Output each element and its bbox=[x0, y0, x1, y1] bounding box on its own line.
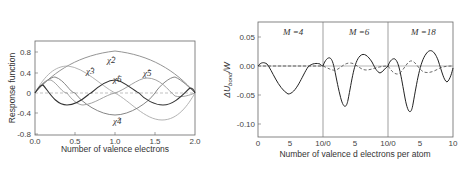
curve-m18-solid bbox=[388, 51, 453, 112]
left-ytick: 0.4 bbox=[20, 69, 32, 78]
annotation-chi5: χ̂5 bbox=[142, 68, 152, 78]
left-xtick: 0.0 bbox=[29, 137, 41, 146]
right-chart: 0.05 0.00 -0.05 -0.10 0 5 10/0 5 10/0 5 … bbox=[222, 22, 458, 159]
right-ytick: 0.00 bbox=[239, 62, 255, 71]
right-y-ticks: 0.05 0.00 -0.05 -0.10 bbox=[237, 33, 261, 129]
right-ytick: -0.10 bbox=[237, 120, 256, 129]
right-y-axis-label: ΔUbond/W bbox=[222, 61, 233, 99]
annotation-chi4: χ̂4 bbox=[112, 116, 122, 126]
right-xtick: 10/0 bbox=[380, 139, 396, 148]
annotation-chi6: χ̂6 bbox=[112, 74, 122, 84]
right-x-ticks: 0 5 10/0 5 10/0 5 10 bbox=[256, 139, 458, 148]
right-xtick: 5 bbox=[418, 139, 423, 148]
figure: 0.8 0.4 0 -0.4 -0.8 0.0 0.5 1.0 1.5 2.0 … bbox=[0, 0, 468, 172]
right-ytick: 0.05 bbox=[239, 33, 255, 42]
right-ytick: -0.05 bbox=[237, 91, 256, 100]
right-xtick: 0 bbox=[256, 139, 261, 148]
panel-label-m4: M =4 bbox=[282, 27, 304, 37]
annotation-chi2: χ̂2 bbox=[106, 55, 116, 65]
left-xtick: 2.0 bbox=[189, 137, 201, 146]
left-chart: 0.8 0.4 0 -0.4 -0.8 0.0 0.5 1.0 1.5 2.0 … bbox=[7, 41, 201, 154]
left-y-axis-label: Response function bbox=[7, 53, 17, 124]
right-xtick: 10 bbox=[449, 139, 458, 148]
left-x-axis-label: Number of valence electrons bbox=[61, 144, 169, 154]
left-ytick: -0.4 bbox=[17, 109, 31, 118]
panel-label-m6: M =6 bbox=[348, 27, 370, 37]
curve-m6-solid bbox=[323, 54, 388, 106]
annotation-chi3: χ̂3 bbox=[85, 66, 95, 76]
right-xtick: 5 bbox=[353, 139, 358, 148]
left-ytick: 0 bbox=[27, 89, 32, 98]
left-ytick: 0.8 bbox=[20, 48, 32, 57]
curve-m4-solid bbox=[258, 63, 323, 94]
right-plot-frame bbox=[258, 22, 453, 137]
right-xtick: 10/0 bbox=[315, 139, 331, 148]
panel-label-m18: M =18 bbox=[410, 27, 436, 37]
right-xtick: 5 bbox=[288, 139, 293, 148]
right-x-axis-label: Number of valence d electrons per atom bbox=[279, 149, 430, 159]
